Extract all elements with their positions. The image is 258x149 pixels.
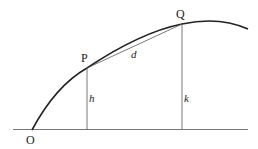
curve [32, 21, 248, 130]
point-label-q: Q [176, 7, 185, 21]
trajectory-diagram: O P Q d h k [0, 0, 258, 149]
segment-label-k: k [184, 92, 190, 104]
segment-label-h: h [89, 92, 95, 104]
segment-label-d: d [131, 48, 137, 60]
point-label-p: P [81, 51, 88, 65]
chord-d [87, 24, 182, 68]
point-label-o: O [26, 133, 35, 147]
